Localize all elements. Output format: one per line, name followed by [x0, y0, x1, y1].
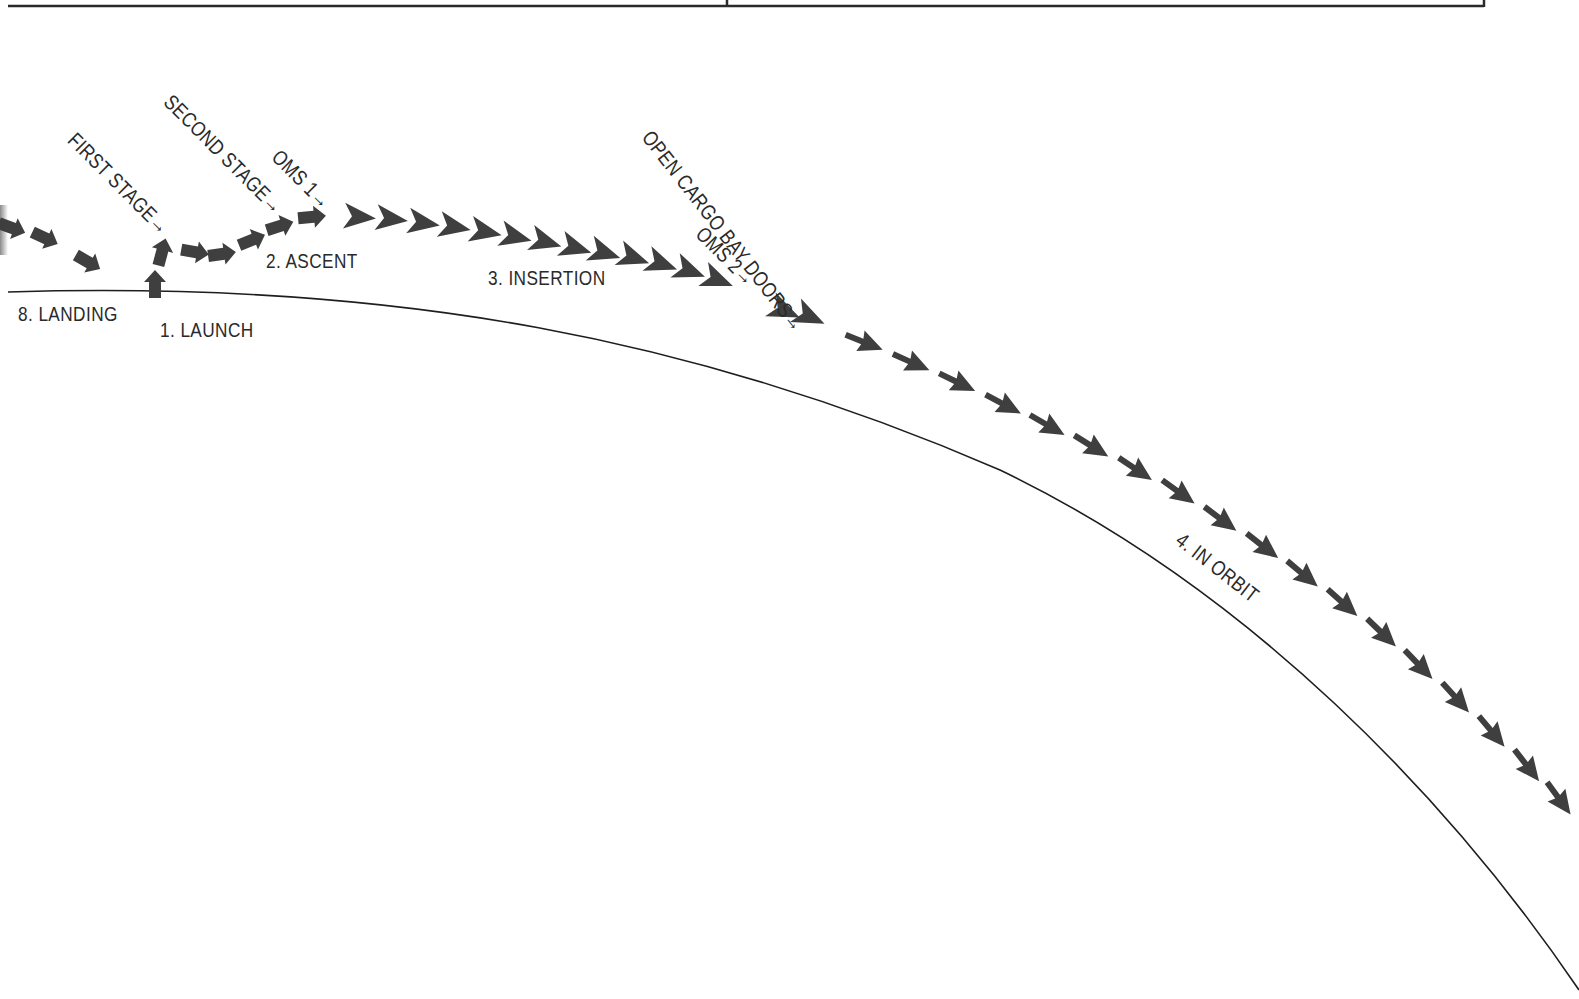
trajectory-arrow-icon — [1360, 611, 1404, 655]
scan-edge-shadow — [0, 205, 8, 255]
trajectory-arrow-icon — [934, 363, 980, 400]
trajectory-arrow-icon — [1397, 643, 1441, 687]
trajectory-arrow-icon — [1280, 552, 1325, 595]
trajectory-arrow-icon — [1024, 405, 1070, 444]
trajectory-arrow-icon — [1113, 449, 1158, 490]
mission-profile-diagram — [0, 0, 1579, 999]
trajectory-arrow-icon — [980, 385, 1026, 423]
trajectory-arrow-icon — [1069, 426, 1115, 466]
trajectory-arrow-icon — [1538, 776, 1579, 821]
trajectory-arrow-icon — [888, 344, 933, 380]
trajectory-arrow-icon — [1198, 498, 1243, 540]
trajectory-arrow-icon — [28, 222, 63, 254]
trajectory-arrow-icon — [1240, 525, 1285, 567]
phase-label-landing: 8. LANDING — [18, 302, 118, 326]
landing-trajectory-arrows — [0, 213, 106, 279]
trajectory-arrow-icon — [1434, 675, 1477, 719]
trajectory-arrow-icon — [70, 245, 105, 278]
trajectory-arrow-icon — [468, 216, 505, 248]
table-bottom-border — [8, 0, 1484, 7]
trajectory-arrow-icon — [144, 270, 166, 298]
trajectory-arrow-icon — [207, 241, 238, 267]
trajectory-arrow-icon — [1506, 743, 1548, 788]
phase-label-ascent: 2. ASCENT — [266, 249, 358, 273]
trajectory-arrow-icon — [1320, 581, 1364, 624]
phase-label-insertion: 3. INSERTION — [488, 266, 606, 290]
trajectory-arrow-icon — [1470, 709, 1513, 754]
trajectory-arrow-icon — [235, 225, 269, 256]
trajectory-arrow-icon — [437, 211, 473, 243]
trajectory-arrow-icon — [1156, 471, 1201, 512]
trajectory-arrow-icon — [406, 208, 442, 239]
trajectory-arrow-icon — [841, 325, 886, 360]
earth-surface-curve — [8, 290, 1579, 990]
trajectory-arrow-icon — [375, 204, 410, 234]
phase-label-launch: 1. LAUNCH — [160, 318, 254, 342]
trajectory-arrow-icon — [343, 203, 377, 232]
